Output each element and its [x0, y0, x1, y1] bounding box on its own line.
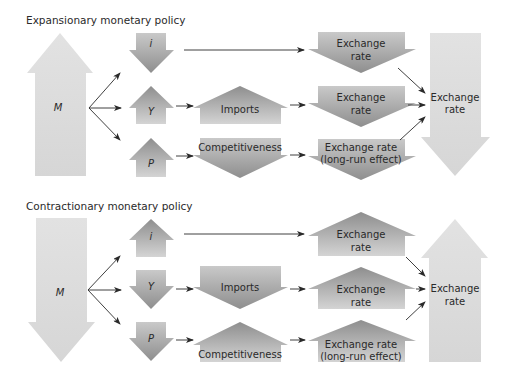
money-label: M: [56, 287, 65, 298]
exchange-rate-label: Exchange rate: [325, 142, 397, 153]
result-label: Exchange: [431, 92, 480, 103]
fan-arrows: [88, 256, 121, 324]
result-exchange-rate-up-arrow: Exchange rate: [421, 219, 488, 362]
interest-rate-label: i: [150, 231, 153, 242]
expansionary-title: Expansionary monetary policy: [26, 14, 185, 26]
price-label: P: [148, 333, 155, 344]
imports-up-arrow: Imports: [193, 86, 288, 124]
interest-rate-up-arrow: i: [129, 219, 174, 257]
converge-arrow: [406, 257, 425, 276]
result-label: rate: [445, 296, 465, 307]
result-label: Exchange: [431, 283, 480, 294]
exchange-rate-label: Exchange: [337, 92, 386, 103]
exchange-rate-down-arrow-2: Exchange rate: [308, 86, 416, 127]
competitiveness-label: Competitiveness: [198, 142, 282, 153]
converge-arrow: [400, 117, 425, 140]
exchange-rate-up-arrow-2: Exchange rate: [308, 267, 416, 309]
exchange-rate-long-run-up-arrow: Exchange rate (long-run effect): [308, 320, 416, 362]
imports-label: Imports: [221, 282, 259, 293]
income-up-arrow: Y: [129, 86, 174, 124]
monetary-policy-diagram: Expansionary monetary policy M i Y P: [0, 0, 509, 379]
income-label: Y: [148, 281, 155, 292]
expansionary-section: Expansionary monetary policy M i Y P: [26, 14, 490, 180]
income-label: Y: [148, 106, 155, 117]
competitiveness-up-arrow: Competitiveness: [193, 322, 288, 362]
imports-label: Imports: [221, 104, 259, 115]
exchange-rate-label: rate: [351, 105, 371, 116]
result-label: rate: [445, 104, 465, 115]
exchange-rate-label: Exchange: [337, 284, 386, 295]
exchange-rate-label: Exchange: [337, 38, 386, 49]
contractionary-title: Contractionary monetary policy: [26, 200, 193, 212]
money-supply-down-arrow: M: [28, 218, 95, 362]
exchange-rate-label: rate: [351, 51, 371, 62]
exchange-rate-label: rate: [351, 297, 371, 308]
competitiveness-down-arrow: Competitiveness: [193, 138, 288, 178]
exchange-rate-label: Exchange: [337, 229, 386, 240]
interest-rate-label: i: [150, 38, 153, 49]
competitiveness-label: Competitiveness: [198, 349, 282, 360]
exchange-rate-label: rate: [351, 242, 371, 253]
money-label: M: [54, 102, 63, 113]
price-down-arrow: P: [129, 322, 174, 361]
price-label: P: [148, 158, 155, 169]
interest-rate-down-arrow: i: [129, 33, 174, 73]
money-supply-up-arrow: M: [27, 33, 93, 176]
exchange-rate-long-run-label: (long-run effect): [320, 154, 402, 165]
contractionary-section: Contractionary monetary policy M i Y P: [26, 200, 488, 362]
exchange-rate-long-run-down-arrow: Exchange rate (long-run effect): [308, 139, 416, 180]
exchange-rate-long-run-label: (long-run effect): [320, 351, 402, 362]
converge-arrow: [406, 302, 425, 320]
exchange-rate-up-arrow-1: Exchange rate: [308, 212, 416, 256]
income-down-arrow: Y: [129, 270, 174, 309]
price-up-arrow: P: [129, 138, 174, 177]
result-exchange-rate-down-arrow: Exchange rate: [421, 33, 490, 176]
imports-down-arrow: Imports: [193, 266, 288, 309]
fan-arrows: [89, 73, 121, 140]
exchange-rate-down-arrow-1: Exchange rate: [308, 32, 416, 73]
exchange-rate-label: Exchange rate: [325, 339, 397, 350]
